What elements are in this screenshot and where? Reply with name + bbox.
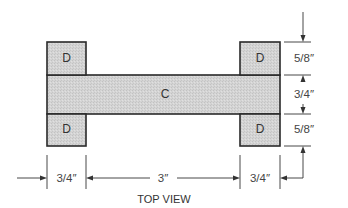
arrow-left-icon (280, 176, 287, 181)
dim-d-bottom-height: 5/8″ (294, 123, 314, 135)
top-view-drawing: C D D D D 5/8″ 3/4″ 5/8″ (0, 0, 348, 208)
vertical-dimensions: 5/8″ 3/4″ 5/8″ (284, 12, 314, 178)
part-d-label: D (62, 122, 71, 136)
part-d-top-left: D (47, 42, 86, 75)
arrow-right-icon (40, 176, 47, 181)
dim-c-width: 3″ (158, 172, 168, 184)
arrow-left-icon (86, 176, 93, 181)
dim-d-top-height: 5/8″ (294, 52, 314, 64)
dim-d-left-width: 3/4″ (56, 172, 76, 184)
part-d-label: D (62, 51, 71, 65)
arrow-down-icon (301, 35, 306, 42)
dim-d-right-width: 3/4″ (250, 172, 270, 184)
arrow-down-icon (301, 107, 306, 114)
dim-c-height: 3/4″ (294, 88, 314, 100)
part-c: C (47, 75, 280, 114)
part-d-top-right: D (240, 42, 280, 75)
view-caption: TOP VIEW (137, 193, 191, 205)
horizontal-dimensions: 3/4″ 3″ 3/4″ (17, 155, 303, 189)
part-c-label: C (161, 87, 170, 101)
part-d-bottom-right: D (240, 114, 280, 146)
part-d-bottom-left: D (47, 114, 86, 146)
arrow-right-icon (233, 176, 240, 181)
part-d-label: D (256, 51, 265, 65)
arrow-up-icon (301, 146, 306, 153)
part-d-label: D (256, 122, 265, 136)
